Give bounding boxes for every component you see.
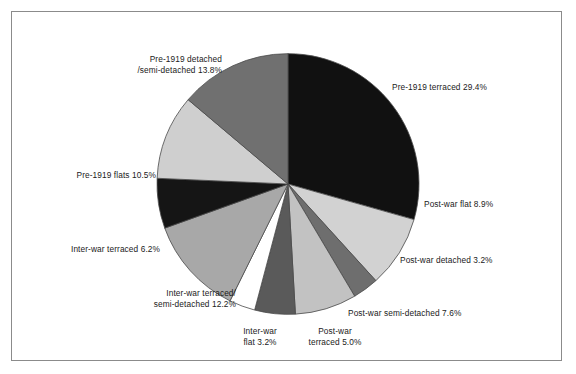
pie-label-pre1919-detached-semi: Pre-1919 detached /semi-detached 13.8%	[92, 54, 222, 76]
pie-label-interwar-terraced: Inter-war terraced 6.2%	[34, 244, 160, 255]
pie-label-postwar-flat: Post-war flat 8.9%	[424, 199, 564, 210]
pie-label-postwar-semi-detached: Post-war semi-detached 7.6%	[348, 308, 538, 319]
pie-slice-group	[157, 54, 419, 315]
pie-label-interwar-terraced-semi: Inter-war terraced/ semi-detached 12.2%	[106, 288, 236, 310]
pie-label-postwar-detached: Post-war detached 3.2%	[400, 255, 560, 266]
pie-label-pre1919-flats: Pre-1919 flats 10.5%	[40, 170, 156, 181]
figure-canvas: Pre-1919 terraced 29.4% Post-war flat 8.…	[0, 0, 576, 374]
pie-label-interwar-flat: Inter-war flat 3.2%	[228, 326, 292, 348]
pie-label-pre1919-terraced: Pre-1919 terraced 29.4%	[392, 82, 552, 93]
pie-label-postwar-terraced: Post-war terraced 5.0%	[296, 326, 374, 348]
